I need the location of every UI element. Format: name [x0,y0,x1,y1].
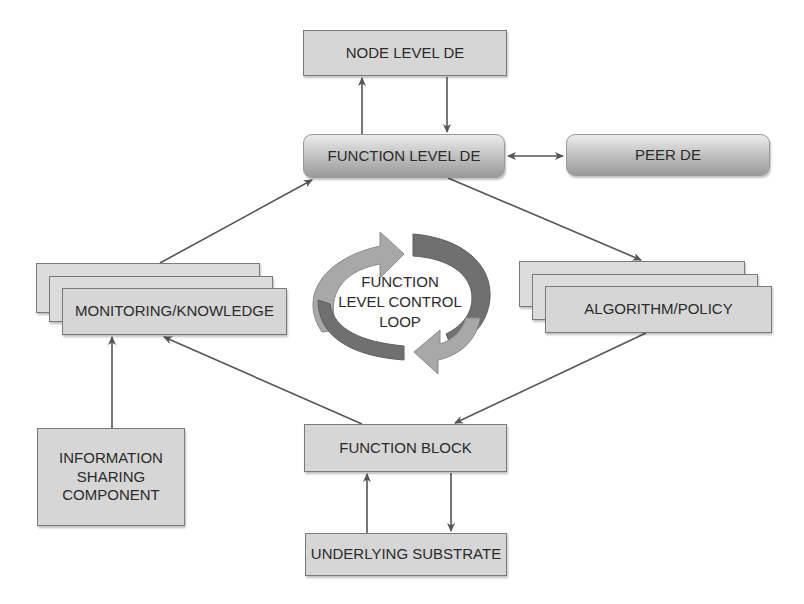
arrow-function-to-algorithm [448,178,641,260]
function-level-de-label: FUNCTION LEVEL DE [328,147,481,166]
algorithm-policy-box: ALGORITHM/POLICY [545,286,772,333]
peer-de-label: PEER DE [635,146,701,165]
loop-label-line-2: LEVEL CONTROL [328,292,472,312]
algorithm-policy-label: ALGORITHM/POLICY [584,300,732,319]
loop-label-line-1: FUNCTION [328,272,472,292]
arrow-algorithm-to-function-block [455,333,646,423]
underlying-substrate-box: UNDERLYING SUBSTRATE [305,533,507,576]
underlying-substrate-label: UNDERLYING SUBSTRATE [311,545,501,564]
node-level-de-box: NODE LEVEL DE [303,30,507,76]
information-sharing-box: INFORMATION SHARING COMPONENT [37,428,185,526]
function-block-box: FUNCTION BLOCK [304,424,507,472]
loop-label-line-3: LOOP [328,312,472,332]
monitoring-knowledge-label: MONITORING/KNOWLEDGE [75,302,274,321]
control-loop-label: FUNCTION LEVEL CONTROL LOOP [328,272,472,332]
monitoring-knowledge-box: MONITORING/KNOWLEDGE [62,288,287,335]
info-label-line-3: COMPONENT [62,486,160,505]
node-level-de-label: NODE LEVEL DE [346,44,465,63]
peer-de-box: PEER DE [566,134,770,176]
info-label-line-2: SHARING [77,468,145,487]
function-level-de-box: FUNCTION LEVEL DE [303,134,505,178]
arrow-monitoring-to-function [160,180,312,263]
info-label-line-1: INFORMATION [59,449,163,468]
function-block-label: FUNCTION BLOCK [339,439,472,458]
arrow-function-block-to-monitoring [164,337,362,424]
